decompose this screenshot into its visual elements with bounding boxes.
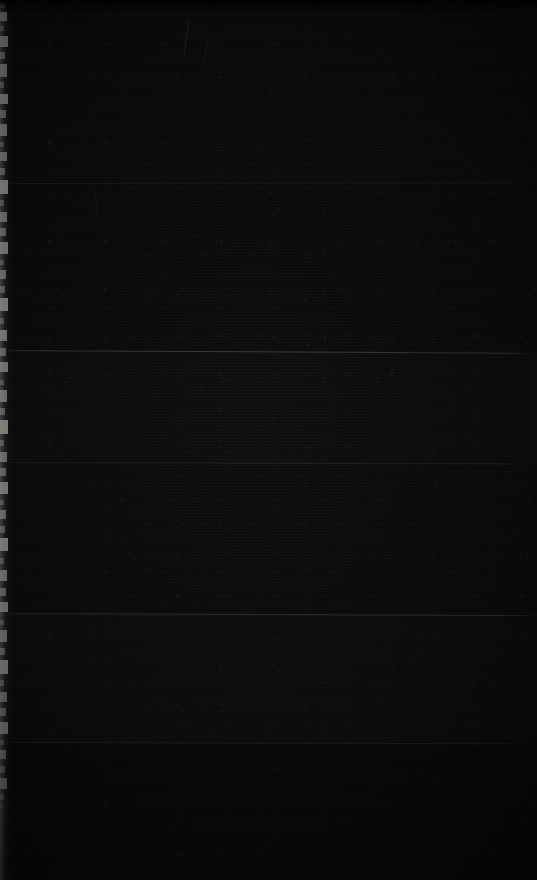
base-field [0,0,537,880]
photo-canvas: near-black textured surface with light l… [0,0,537,880]
